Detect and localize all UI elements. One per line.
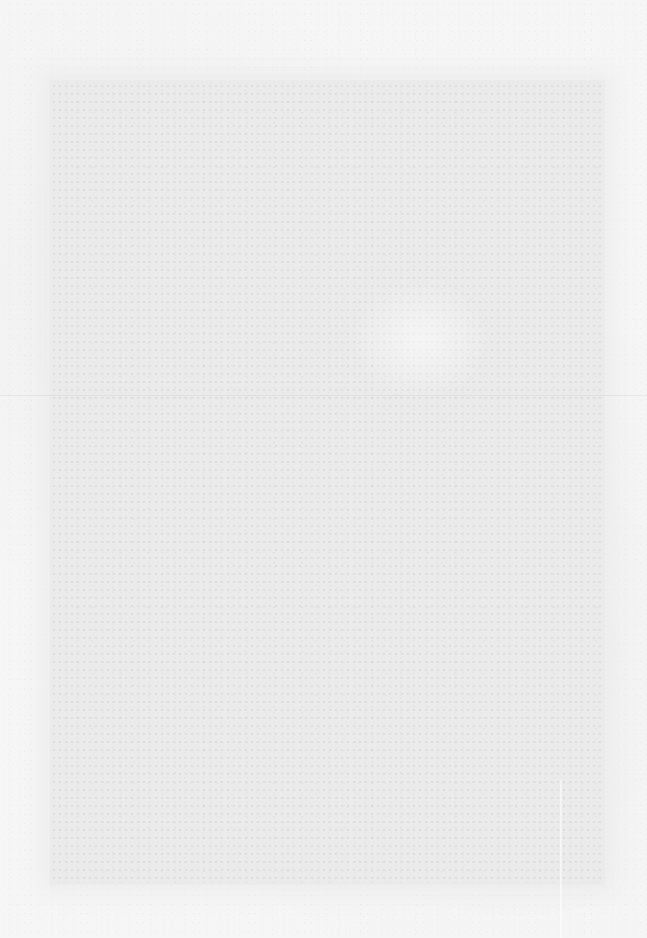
scanned-page	[0, 0, 647, 938]
light-patch	[350, 280, 490, 400]
fold-line	[0, 395, 647, 396]
scan-region	[50, 80, 605, 885]
seam-line	[560, 780, 562, 938]
